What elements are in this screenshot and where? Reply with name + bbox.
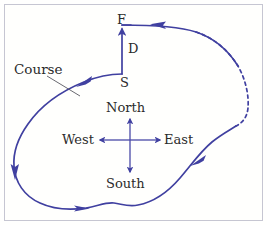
compass-rose xyxy=(100,119,160,172)
start-label: S xyxy=(120,76,129,89)
displacement-label: D xyxy=(128,42,138,55)
course-dashed-gap xyxy=(196,32,248,126)
finish-label: F xyxy=(117,13,126,26)
course-diagram-figure: Course F D S North East South West xyxy=(0,0,267,225)
compass-north-label: North xyxy=(106,101,145,114)
compass-west-label: West xyxy=(62,133,94,146)
course-label: Course xyxy=(14,63,63,77)
compass-east-label: East xyxy=(164,133,193,146)
compass-south-label: South xyxy=(106,177,145,190)
upper-left-direction-arrow xyxy=(76,76,92,87)
